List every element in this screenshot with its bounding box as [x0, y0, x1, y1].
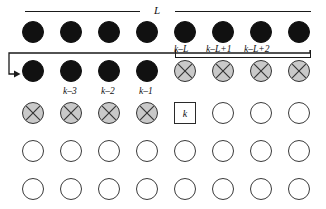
lattice-node-empty-r4-c1 — [60, 178, 82, 200]
lattice-node-crossed-r2-c0 — [22, 102, 44, 124]
span-label-L: L — [154, 4, 160, 16]
lattice-node-filled-r1-c2 — [98, 60, 120, 82]
lattice-node-empty-r4-c7 — [288, 178, 310, 200]
lattice-node-empty-r3-c0 — [22, 140, 44, 162]
lattice-node-empty-r3-c2 — [98, 140, 120, 162]
lattice-node-crossed-r2-c1 — [60, 102, 82, 124]
lattice-node-crossed-r1-c5 — [212, 60, 234, 82]
lattice-node-empty-r4-c4 — [174, 178, 196, 200]
lattice-node-empty-r3-c7 — [288, 140, 310, 162]
lattice-node-crossed-r1-c4 — [174, 60, 196, 82]
cross-icon — [98, 102, 120, 124]
span-rule-right — [175, 11, 311, 12]
lattice-node-filled-r0-c5 — [212, 21, 234, 43]
cross-icon — [288, 60, 310, 82]
lattice-node-filled-r0-c7 — [288, 21, 310, 43]
cross-icon — [174, 60, 196, 82]
index-bracket-rule — [175, 57, 311, 58]
lattice-node-empty-r3-c5 — [212, 140, 234, 162]
lattice-node-filled-r0-c6 — [250, 21, 272, 43]
cross-icon — [136, 102, 158, 124]
lattice-node-empty-r2-c6 — [250, 102, 272, 124]
lattice-node-empty-r3-c6 — [250, 140, 272, 162]
lattice-node-filled-r0-c3 — [136, 21, 158, 43]
index-label-k-minus-L-plus-1: k–L+1 — [206, 44, 231, 54]
lattice-node-filled-r1-c1 — [60, 60, 82, 82]
current-site-k-box: k — [174, 102, 196, 124]
current-site-k-label: k — [183, 108, 187, 119]
index-label-k-minus-2: k–2 — [101, 86, 115, 96]
lattice-node-empty-r2-c5 — [212, 102, 234, 124]
lattice-node-crossed-r2-c3 — [136, 102, 158, 124]
lattice-node-filled-r1-c0 — [22, 60, 44, 82]
lattice-node-empty-r3-c4 — [174, 140, 196, 162]
lattice-node-filled-r0-c4 — [174, 21, 196, 43]
lattice-node-crossed-r1-c6 — [250, 60, 272, 82]
index-label-k-minus-3: k–3 — [63, 86, 77, 96]
lattice-node-filled-r0-c1 — [60, 21, 82, 43]
lattice-node-empty-r2-c7 — [288, 102, 310, 124]
wraparound-arrow-icon — [0, 0, 326, 209]
lattice-node-empty-r4-c6 — [250, 178, 272, 200]
lattice-node-filled-r1-c3 — [136, 60, 158, 82]
cross-icon — [60, 102, 82, 124]
lattice-node-empty-r4-c2 — [98, 178, 120, 200]
lattice-node-filled-r0-c0 — [22, 21, 44, 43]
span-rule-left — [25, 11, 140, 12]
lattice-node-filled-r0-c2 — [98, 21, 120, 43]
lattice-diagram: L k–L k–L+1 k–L+2 k–3 k–2 k–1 k — [0, 0, 326, 209]
cross-icon — [212, 60, 234, 82]
cross-icon — [250, 60, 272, 82]
cross-icon — [22, 102, 44, 124]
index-label-k-minus-L-plus-2: k–L+2 — [244, 44, 269, 54]
lattice-node-empty-r4-c3 — [136, 178, 158, 200]
lattice-node-empty-r3-c1 — [60, 140, 82, 162]
lattice-node-crossed-r2-c2 — [98, 102, 120, 124]
index-bracket-tick-right — [310, 50, 311, 58]
lattice-node-empty-r3-c3 — [136, 140, 158, 162]
lattice-node-crossed-r1-c7 — [288, 60, 310, 82]
lattice-node-empty-r4-c0 — [22, 178, 44, 200]
index-label-k-minus-1: k–1 — [139, 86, 153, 96]
lattice-node-empty-r4-c5 — [212, 178, 234, 200]
index-label-k-minus-L: k–L — [174, 44, 188, 54]
